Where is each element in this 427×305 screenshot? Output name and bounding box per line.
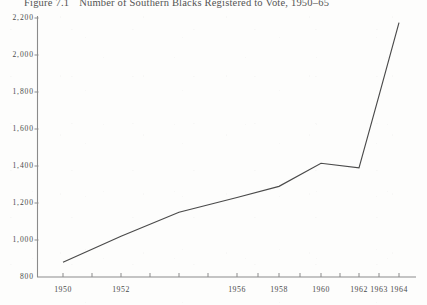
figure-page: Figure 7.1Number of Southern Blacks Regi… bbox=[0, 0, 427, 305]
y-tick-label: 1,800 bbox=[0, 88, 34, 96]
y-tick-label: 1,000 bbox=[0, 236, 34, 244]
y-tick-label: 800 bbox=[0, 273, 34, 281]
x-tick-label: 1960 bbox=[301, 285, 341, 294]
chart-series bbox=[63, 23, 399, 263]
x-tick-label: 1964 bbox=[379, 285, 419, 294]
y-tick-label: 1,200 bbox=[0, 199, 34, 207]
axis-lines bbox=[38, 16, 417, 277]
y-tick-label: 2,000 bbox=[0, 51, 34, 59]
y-tick-label: 1,600 bbox=[0, 125, 34, 133]
y-tick-label: 2,200 bbox=[0, 14, 34, 22]
chart-axes bbox=[35, 16, 417, 277]
line-chart: 2,2002,0001,8001,6001,4001,2001,000800 1… bbox=[0, 0, 427, 305]
x-tick-label: 1956 bbox=[217, 285, 257, 294]
data-line-series-0 bbox=[63, 23, 399, 263]
x-tick-label: 1950 bbox=[43, 285, 83, 294]
x-tick-label: 1958 bbox=[259, 285, 299, 294]
chart-svg bbox=[0, 0, 427, 305]
x-axis-ticks bbox=[63, 273, 399, 277]
x-tick-label: 1952 bbox=[101, 285, 141, 294]
y-tick-label: 1,400 bbox=[0, 162, 34, 170]
